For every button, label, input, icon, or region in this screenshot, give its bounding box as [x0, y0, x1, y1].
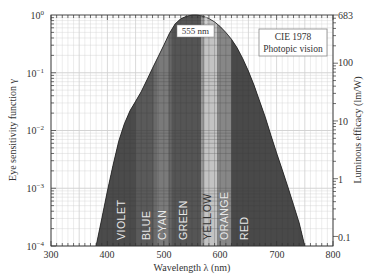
x-tick-500: 500 [157, 249, 172, 260]
band-label-yellow: YELLOW [201, 193, 213, 240]
band-label-cyan: CYAN [156, 210, 168, 240]
x-tick-700: 700 [270, 249, 285, 260]
x-tick-300: 300 [44, 249, 59, 260]
y-right-tick-0.1: 0.1 [338, 232, 351, 243]
y-axis-left-title: Eye sensitivity function γ [7, 78, 18, 180]
band-label-blue: BLUE [140, 211, 152, 240]
y-axis-left-labels: 100 10−1 10−2 10−3 10−4 [27, 9, 45, 252]
eye-sensitivity-chart: VIOLET BLUE CYAN GREEN YELLOW ORANGE RED… [0, 0, 372, 278]
y-right-tick-100: 100 [338, 57, 353, 68]
band-label-orange: ORANGE [218, 191, 230, 240]
y-tick-1e-4: 10−4 [27, 240, 45, 252]
peak-label: 555 nm [182, 26, 209, 36]
x-axis-title: Wavelength λ (nm) [154, 262, 231, 274]
y-right-tick-1: 1 [338, 174, 343, 185]
y-tick-1e-2: 10−2 [27, 124, 45, 136]
x-tick-800: 800 [326, 249, 341, 260]
y-axis-right-title: Luminous efficacy (lm/W) [352, 76, 364, 183]
y-tick-1e0: 100 [31, 9, 45, 21]
legend-line-2: Photopic vision [263, 44, 323, 54]
legend-line-1: CIE 1978 [275, 32, 312, 42]
y-axis-right-labels: 683 100 10 1 0.1 [338, 10, 353, 243]
x-tick-600: 600 [213, 249, 228, 260]
x-tick-400: 400 [100, 249, 115, 260]
x-axis-labels: 300 400 500 600 700 800 [44, 249, 341, 260]
band-label-green: GREEN [177, 200, 189, 240]
legend-box: CIE 1978 Photopic vision [259, 29, 327, 56]
y-right-tick-683: 683 [338, 10, 353, 21]
band-label-red: RED [238, 216, 250, 240]
y-right-tick-10: 10 [338, 116, 348, 127]
y-tick-1e-3: 10−3 [27, 182, 45, 194]
y-tick-1e-1: 10−1 [27, 67, 45, 79]
band-label-violet: VIOLET [115, 200, 127, 240]
